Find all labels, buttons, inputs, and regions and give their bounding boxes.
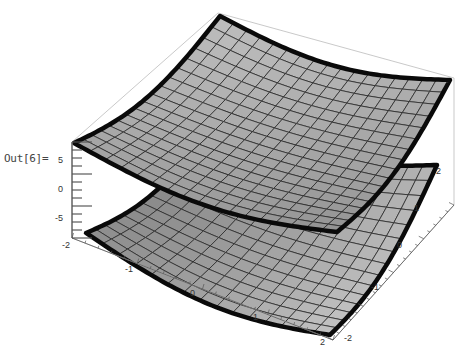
y-tick-label: 2 [436, 166, 441, 176]
z-tick-label: -5 [55, 213, 63, 223]
x-tick-label: -1 [125, 264, 133, 274]
y-tick-label: 0 [397, 240, 402, 250]
plot-3d-graphic[interactable]: 5 0 -5 -2 -1 0 1 2 -2 -1 0 1 2 [0, 0, 464, 360]
y-tick-label: -1 [371, 282, 379, 292]
x-tick-label: -2 [62, 240, 70, 250]
x-tick-label: 0 [190, 288, 195, 298]
y-tick-label: -2 [344, 333, 352, 343]
z-tick-label: 0 [58, 184, 63, 194]
x-tick-label: 2 [320, 337, 325, 347]
z-axis [72, 142, 92, 238]
z-tick-label: 5 [58, 155, 63, 165]
y-tick-label: 1 [414, 203, 419, 213]
x-tick-label: 1 [253, 312, 258, 322]
